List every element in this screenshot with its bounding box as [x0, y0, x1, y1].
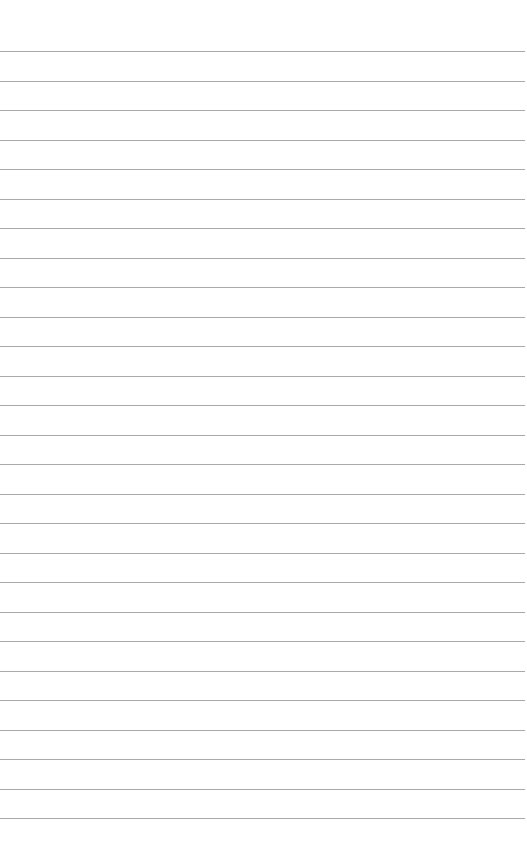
ruled-line: [0, 169, 525, 170]
ruled-line: [0, 81, 525, 82]
ruled-line: [0, 317, 525, 318]
ruled-line: [0, 612, 525, 613]
ruled-line: [0, 818, 525, 819]
ruled-line: [0, 464, 525, 465]
ruled-line: [0, 671, 525, 672]
ruled-line: [0, 582, 525, 583]
ruled-line: [0, 700, 525, 701]
ruled-line: [0, 494, 525, 495]
ruled-line: [0, 553, 525, 554]
ruled-line: [0, 641, 525, 642]
ruled-line: [0, 789, 525, 790]
ruled-line: [0, 140, 525, 141]
ruled-line: [0, 730, 525, 731]
ruled-line: [0, 110, 525, 111]
ruled-line: [0, 405, 525, 406]
ruled-line: [0, 376, 525, 377]
ruled-line: [0, 228, 525, 229]
ruled-line: [0, 51, 525, 52]
ruled-line: [0, 523, 525, 524]
ruled-line: [0, 759, 525, 760]
ruled-line: [0, 199, 525, 200]
lined-paper-page: [0, 0, 527, 867]
ruled-line: [0, 287, 525, 288]
ruled-line: [0, 258, 525, 259]
ruled-line: [0, 346, 525, 347]
ruled-line: [0, 435, 525, 436]
